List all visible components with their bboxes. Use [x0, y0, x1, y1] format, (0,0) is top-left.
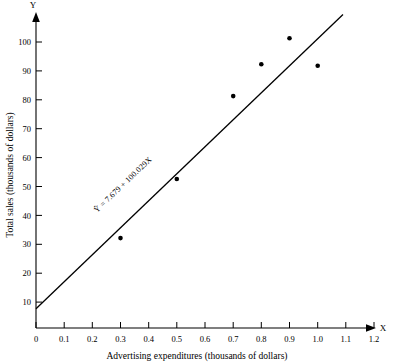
- x-tick-label: 0.4: [143, 334, 154, 344]
- x-tick-label: 0.1: [59, 334, 70, 344]
- y-axis-tick-labels: 10 20 30 40 50 60 70 80 90 100: [18, 37, 31, 307]
- y-axis-title: Total sales (thousands of dollars): [5, 112, 16, 237]
- x-tick-label: 1.2: [369, 334, 380, 344]
- regression-line: [36, 15, 343, 309]
- y-tick-label: 10: [23, 297, 32, 307]
- x-tick-label: 0.8: [256, 334, 267, 344]
- x-axis-name: X: [380, 323, 387, 333]
- data-points: [118, 36, 320, 240]
- scatter-plot-figure: Y X 10 20 30 40 50 60: [0, 0, 394, 364]
- x-axis: X: [36, 323, 387, 333]
- y-tick-label: 100: [18, 37, 31, 47]
- x-tick-label: 0.6: [200, 334, 211, 344]
- x-tick-label: 0: [34, 334, 38, 344]
- y-axis-ticks: [36, 42, 42, 302]
- x-tick-label: 0.2: [87, 334, 98, 344]
- x-tick-label: 0.9: [284, 334, 295, 344]
- y-tick-label: 60: [23, 153, 32, 163]
- data-point: [175, 177, 180, 182]
- data-point: [118, 236, 123, 241]
- x-axis-tick-labels: 0 0.1 0.2 0.3 0.4 0.5 0.6 0.7 0.8 0.9 1.…: [34, 334, 379, 344]
- x-tick-label: 1.1: [340, 334, 351, 344]
- y-axis-name: Y: [30, 0, 37, 10]
- y-tick-label: 20: [23, 268, 32, 278]
- y-tick-label: 70: [23, 124, 32, 134]
- y-axis-arrow: [32, 12, 40, 22]
- y-tick-label: 80: [23, 95, 32, 105]
- x-axis-title: Advertising expenditures (thousands of d…: [107, 351, 288, 362]
- data-point: [287, 36, 292, 41]
- x-axis-ticks: [36, 322, 374, 328]
- y-tick-label: 40: [23, 211, 32, 221]
- y-tick-label: 90: [23, 66, 32, 76]
- x-tick-label: 0.3: [115, 334, 126, 344]
- y-axis: Y: [30, 0, 40, 328]
- data-point: [259, 62, 264, 67]
- data-point: [315, 63, 320, 68]
- chart-canvas: Y X 10 20 30 40 50 60: [0, 0, 394, 364]
- data-point: [231, 94, 236, 99]
- y-tick-label: 50: [23, 182, 32, 192]
- y-tick-label: 30: [23, 239, 32, 249]
- x-tick-label: 0.7: [228, 334, 239, 344]
- x-tick-label: 1.0: [312, 334, 323, 344]
- x-tick-label: 0.5: [171, 334, 182, 344]
